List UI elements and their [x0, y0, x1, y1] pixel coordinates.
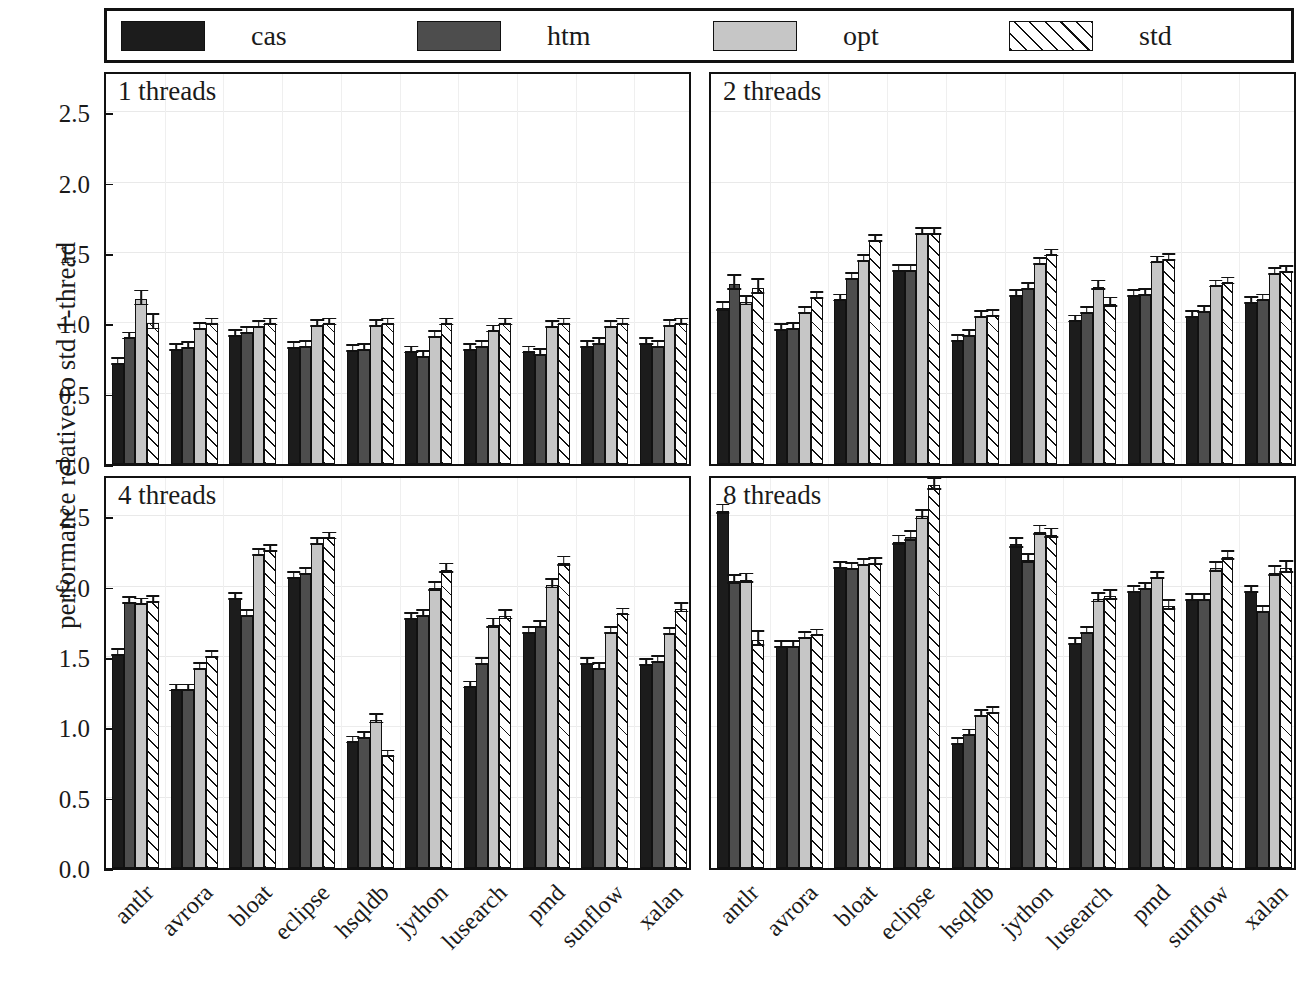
error-cap-upper — [1162, 599, 1176, 601]
error-cap-upper — [1045, 528, 1059, 530]
error-cap-upper — [416, 350, 430, 352]
error-cap-lower — [228, 598, 242, 600]
error-cap-upper — [428, 330, 442, 332]
bar-antlr-htm — [729, 581, 741, 868]
panel-title: 2 threads — [723, 78, 821, 105]
bar-group-pmd — [1122, 478, 1181, 868]
bar-xalan-htm — [652, 346, 664, 464]
error-cap-lower — [299, 573, 313, 575]
bar-xalan-opt — [664, 633, 676, 868]
bar-pmd-htm — [535, 354, 547, 464]
bar-eclipse-htm — [300, 573, 312, 869]
error-cap-upper — [674, 318, 688, 320]
legend-entry-std: std — [995, 21, 1291, 51]
error-cap-upper — [264, 544, 278, 546]
error-cap-upper — [463, 343, 477, 345]
error-cap-lower — [1244, 302, 1258, 304]
bar-group-pmd — [517, 74, 576, 464]
plot-area — [106, 74, 689, 464]
bar-antlr-htm — [124, 337, 136, 464]
bar-antlr-std — [147, 601, 159, 868]
error-cap-upper — [739, 573, 753, 575]
error-cap-upper — [869, 557, 883, 559]
error-cap-lower — [892, 543, 906, 545]
error-cap-upper — [927, 477, 941, 479]
bar-avrora-htm — [787, 646, 799, 868]
error-cap-upper — [358, 343, 372, 345]
error-cap-upper — [534, 348, 548, 350]
bar-jython-std — [441, 570, 453, 868]
y-tick-label: 1.5 — [28, 242, 90, 267]
error-cap-lower — [440, 324, 454, 326]
legend-label-std: std — [1139, 22, 1172, 50]
panel-2-threads: 2 threads — [709, 72, 1296, 466]
bar-avrora-opt — [194, 668, 206, 868]
bar-sunflow-std — [617, 323, 629, 464]
error-cap-lower — [404, 352, 418, 354]
plot-area — [106, 478, 689, 868]
error-cap-lower — [986, 712, 1000, 714]
error-cap-lower — [1092, 288, 1106, 290]
error-cap-lower — [123, 338, 137, 340]
error-cap-upper — [1244, 585, 1258, 587]
error-cap-upper — [1279, 265, 1293, 267]
error-cap-upper — [228, 329, 242, 331]
legend-label-cas: cas — [251, 22, 287, 50]
bar-group-avrora — [165, 478, 224, 868]
bar-lusearch-htm — [1081, 632, 1093, 868]
error-cap-upper — [322, 318, 336, 320]
error-cap-lower — [534, 354, 548, 356]
error-cap-lower — [963, 335, 977, 337]
error-cap-upper — [1103, 589, 1117, 591]
error-cap-lower — [1197, 311, 1211, 313]
bar-hsqldb-std — [382, 755, 394, 868]
bar-sunflow-opt — [1210, 285, 1222, 464]
error-cap-lower — [833, 300, 847, 302]
error-cap-upper — [639, 658, 653, 660]
y-tick-mark — [104, 658, 113, 660]
bar-bloat-htm — [846, 568, 858, 868]
bar-jython-opt — [1034, 263, 1046, 464]
error-cap-upper — [1244, 296, 1258, 298]
bar-hsqldb-cas — [347, 350, 359, 464]
error-cap-lower — [146, 328, 160, 330]
bar-avrora-opt — [194, 328, 206, 464]
error-cap-upper — [134, 598, 148, 600]
error-cap-upper — [1256, 294, 1270, 296]
error-cap-upper — [1197, 593, 1211, 595]
bar-bloat-cas — [834, 567, 846, 868]
error-cap-upper — [798, 306, 812, 308]
bar-eclipse-std — [928, 233, 940, 464]
error-cap-upper — [810, 291, 824, 293]
error-cap-upper — [1009, 537, 1023, 539]
error-cap-upper — [322, 532, 336, 534]
bar-xalan-cas — [640, 343, 652, 464]
error-cap-upper — [381, 318, 395, 320]
error-cap-lower — [616, 324, 630, 326]
error-cap-lower — [1009, 295, 1023, 297]
error-cap-lower — [193, 668, 207, 670]
error-cap-lower — [798, 312, 812, 314]
bar-xalan-cas — [1245, 591, 1257, 868]
bar-eclipse-htm — [300, 346, 312, 464]
error-cap-upper — [786, 640, 800, 642]
error-cap-lower — [287, 577, 301, 579]
error-cap-upper — [146, 313, 160, 315]
bar-lusearch-cas — [464, 349, 476, 464]
y-tick-label: 1.0 — [28, 716, 90, 741]
error-cap-lower — [181, 347, 195, 349]
error-cap-upper — [1080, 626, 1094, 628]
error-cap-upper — [1103, 297, 1117, 299]
bar-avrora-std — [206, 323, 218, 464]
bar-jython-htm — [417, 615, 429, 868]
bar-sunflow-htm — [593, 668, 605, 868]
error-cap-upper — [869, 234, 883, 236]
error-cap-upper — [299, 567, 313, 569]
error-cap-lower — [264, 550, 278, 552]
bar-xalan-std — [675, 609, 687, 868]
bar-jython-cas — [1010, 544, 1022, 868]
bar-group-avrora — [770, 478, 829, 868]
error-cap-upper — [604, 320, 618, 322]
bar-hsqldb-opt — [370, 720, 382, 868]
bar-xalan-std — [1280, 271, 1292, 464]
